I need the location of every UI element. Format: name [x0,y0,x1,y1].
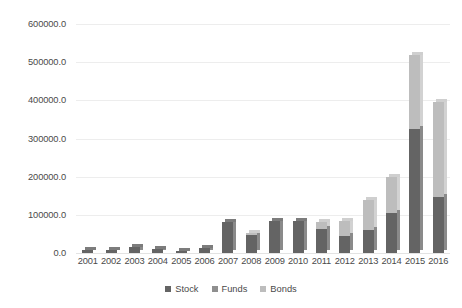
bar-column [82,24,93,253]
bar-side-face [350,233,353,250]
y-tick-label: 200000.0 [28,172,66,182]
bar-segment-bonds [386,177,397,213]
bar-top-face [389,174,400,177]
x-tick-label: 2016 [428,256,448,266]
legend-label: Funds [222,284,248,294]
bar-top-face [155,246,166,249]
x-tick-label: 2014 [382,256,402,266]
bar-side-face [374,197,377,228]
legend-item[interactable]: Funds [212,284,248,294]
bar-column [199,24,210,253]
y-tick-label: 500000.0 [28,57,66,67]
bar-group [106,24,117,253]
y-tick-label: 400000.0 [28,95,66,105]
y-tick-label: 0.0 [53,248,66,258]
bar-side-face [233,219,236,250]
bar-column [269,24,280,253]
bar-segment-stock [316,229,327,253]
bar-column [106,24,117,253]
legend-label: Stock [175,284,198,294]
legend-item[interactable]: Bonds [260,284,296,294]
gridline [76,253,450,254]
bar-top-face [436,99,447,102]
x-tick-label: 2009 [265,256,285,266]
bar-segment-bonds [409,55,420,129]
bar-top-face [342,218,353,221]
bar-segment-bonds [433,102,444,196]
bar-segment-stock [222,222,233,253]
x-axis: 2001200220032004200520062007200820092010… [76,256,450,272]
bar-column [409,24,420,253]
bar-segment-stock [293,221,304,253]
bar-group [293,24,304,253]
bar-side-face [420,126,423,250]
x-tick-label: 2005 [171,256,191,266]
bar-column [246,24,257,253]
bar-side-face [327,226,330,250]
bar-side-face [374,227,377,250]
bar-side-face [444,99,447,193]
bar-segment-stock [82,250,93,253]
bar-group [409,24,420,253]
bar-top-face [85,247,96,250]
bar-side-face [304,218,307,250]
bar-column [433,24,444,253]
y-axis: 0.0100000.0200000.0300000.0400000.050000… [0,0,72,308]
x-tick-label: 2008 [241,256,261,266]
x-tick-label: 2007 [218,256,238,266]
legend-label: Bonds [270,284,296,294]
x-tick-label: 2010 [288,256,308,266]
bar-side-face [444,194,447,250]
bar-segment-stock [246,235,257,253]
bar-segment-stock [176,251,187,253]
bar-column [222,24,233,253]
bar-group [363,24,374,253]
bar-column [176,24,187,253]
bar-column [293,24,304,253]
bar-side-face [397,210,400,250]
bar-segment-stock [386,213,397,253]
bar-segment-bonds [339,221,350,236]
x-tick-label: 2011 [312,256,331,266]
y-tick-label: 100000.0 [28,210,66,220]
bar-column [152,24,163,253]
bar-group [433,24,444,253]
x-tick-label: 2002 [101,256,121,266]
chart-container: 0.0100000.0200000.0300000.0400000.050000… [0,0,462,308]
bar-group [269,24,280,253]
bar-column [129,24,140,253]
bar-segment-stock [152,249,163,253]
x-tick-label: 2012 [335,256,355,266]
bar-top-face [179,248,190,251]
bar-group [199,24,210,253]
bar-top-face [109,247,120,250]
bar-segment-stock [269,221,280,253]
bar-column [339,24,350,253]
chart-legend: StockFundsBonds [0,284,462,294]
bar-group [129,24,140,253]
bar-segment-bonds [246,233,257,235]
bar-segment-stock [339,236,350,253]
bar-group [222,24,233,253]
bar-group [246,24,257,253]
bar-top-face [296,218,307,221]
x-tick-label: 2004 [148,256,168,266]
bar-top-face [366,197,377,200]
legend-swatch-icon [165,286,171,292]
bar-top-face [319,219,330,222]
bar-group [176,24,187,253]
bar-segment-stock [363,230,374,253]
bar-group [386,24,397,253]
bar-segment-stock [129,247,140,253]
bar-segment-bonds [363,200,374,231]
bars-layer [76,24,450,253]
bar-top-face [412,52,423,55]
bar-segment-stock [106,250,117,253]
legend-item[interactable]: Stock [165,284,198,294]
x-tick-label: 2003 [124,256,144,266]
bar-column [316,24,327,253]
bar-group [339,24,350,253]
bar-segment-stock [433,197,444,253]
legend-swatch-icon [212,286,218,292]
x-tick-label: 2015 [405,256,425,266]
